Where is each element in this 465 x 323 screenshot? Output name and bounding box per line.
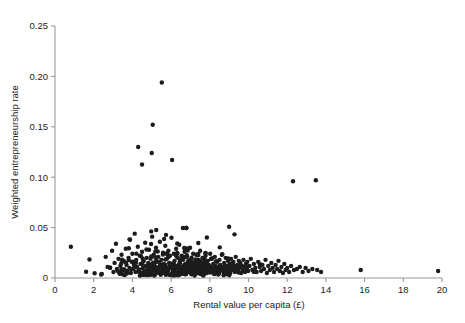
data-point — [145, 256, 149, 260]
x-tick-label: 0 — [52, 284, 57, 295]
data-point — [143, 241, 147, 245]
data-point — [171, 266, 175, 270]
data-point — [165, 267, 169, 271]
data-point — [152, 268, 156, 272]
data-point — [249, 257, 253, 261]
data-point — [151, 261, 155, 265]
data-point — [162, 237, 166, 241]
data-point — [176, 273, 180, 277]
data-point — [163, 257, 167, 261]
data-point — [157, 271, 161, 275]
data-point — [136, 245, 140, 249]
data-point — [205, 235, 209, 239]
data-point — [310, 267, 314, 271]
x-tick-label: 4 — [130, 284, 135, 295]
data-point — [174, 254, 178, 258]
x-tick-label: 6 — [168, 284, 173, 295]
data-point — [234, 255, 238, 259]
data-point — [134, 265, 138, 269]
data-point — [298, 265, 302, 269]
data-point — [140, 250, 144, 254]
data-point — [241, 258, 245, 262]
data-point — [134, 251, 138, 255]
data-point — [99, 272, 103, 276]
data-point — [230, 261, 234, 265]
data-point — [262, 267, 266, 271]
data-point — [245, 265, 249, 269]
data-point — [110, 249, 114, 253]
data-points-layer — [69, 80, 441, 277]
data-point — [186, 259, 190, 263]
x-tick-label: 10 — [243, 284, 254, 295]
data-point — [151, 123, 155, 127]
data-point — [153, 255, 157, 259]
data-point — [237, 270, 241, 274]
data-point — [142, 273, 146, 277]
data-point — [149, 229, 153, 233]
data-point — [172, 271, 176, 275]
data-point — [202, 257, 206, 261]
y-tick-label: 0.05 — [30, 222, 49, 233]
data-point — [287, 270, 291, 274]
data-point — [112, 261, 116, 265]
data-point — [153, 249, 157, 253]
data-point — [127, 246, 131, 250]
data-point — [120, 258, 124, 262]
data-point — [191, 270, 195, 274]
scatter-plot-figure: 00.050.100.150.200.25 02468101214161820 … — [0, 0, 465, 323]
data-point — [189, 262, 193, 266]
data-point — [136, 145, 140, 149]
data-point — [306, 269, 310, 273]
data-point — [161, 252, 165, 256]
clipped-caption-strip — [0, 0, 465, 9]
data-point — [130, 252, 134, 256]
data-point — [300, 270, 304, 274]
data-point — [210, 256, 214, 260]
data-point — [222, 271, 226, 275]
data-point — [176, 264, 180, 268]
data-point — [152, 273, 156, 277]
data-point — [84, 270, 88, 274]
y-tick-label: 0.15 — [30, 121, 49, 132]
data-point — [228, 268, 232, 272]
data-point — [174, 247, 178, 251]
data-point — [149, 242, 153, 246]
y-tick-label: 0.10 — [30, 172, 49, 183]
data-point — [184, 226, 188, 230]
data-point — [119, 253, 123, 257]
data-point — [223, 263, 227, 267]
data-point — [126, 258, 130, 262]
data-point — [237, 264, 241, 268]
data-point — [69, 245, 73, 249]
data-point — [263, 258, 267, 262]
data-point — [129, 271, 133, 275]
data-point — [182, 263, 186, 267]
data-point — [214, 259, 218, 263]
data-point — [359, 268, 363, 272]
data-point — [226, 256, 230, 260]
data-point — [196, 253, 200, 257]
data-point — [134, 260, 138, 264]
y-tick-label: 0 — [43, 272, 48, 283]
data-point — [140, 256, 144, 260]
data-point — [144, 247, 148, 251]
x-axis: 02468101214161820 — [52, 278, 447, 295]
data-point — [285, 266, 289, 270]
data-point — [114, 242, 118, 246]
data-point — [252, 262, 256, 266]
data-point — [111, 270, 115, 274]
data-point — [291, 179, 295, 183]
data-point — [178, 258, 182, 262]
y-axis: 00.050.100.150.200.25 — [30, 20, 56, 283]
data-point — [104, 255, 108, 259]
y-tick-label: 0.20 — [30, 71, 49, 82]
data-point — [208, 252, 212, 256]
y-axis-title: Weighted entrepreneurship rate — [9, 85, 20, 218]
x-tick-label: 8 — [207, 284, 212, 295]
data-point — [163, 244, 167, 248]
x-tick-label: 14 — [321, 284, 332, 295]
data-point — [201, 273, 205, 277]
data-point — [162, 271, 166, 275]
x-tick-label: 20 — [437, 284, 448, 295]
data-point — [227, 225, 231, 229]
